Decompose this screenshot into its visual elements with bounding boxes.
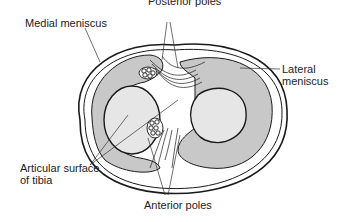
label-posterior-poles: Posterior poles	[148, 0, 221, 7]
lateral-articular-surface	[191, 88, 246, 142]
meniscus-diagram	[0, 0, 342, 222]
label-lateral-meniscus-line1: Lateral	[282, 63, 316, 75]
label-anterior-poles: Anterior poles	[144, 199, 212, 211]
posterior-pole-attachment	[139, 67, 157, 79]
label-medial-meniscus: Medial meniscus	[25, 17, 107, 29]
label-lateral-meniscus-line2: meniscus	[282, 75, 328, 87]
label-articular-surface-line1: Articular surface	[20, 162, 99, 174]
label-articular-surface-line2: of tibia	[20, 174, 52, 186]
